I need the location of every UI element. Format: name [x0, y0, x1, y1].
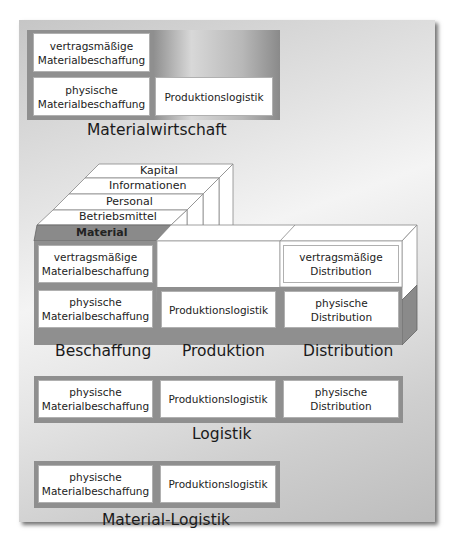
- logistik-title: Logistik: [192, 425, 251, 443]
- layer-personal: Personal: [106, 195, 153, 208]
- material-logistik-title: Material-Logistik: [102, 511, 230, 529]
- column-title-beschaffung: Beschaffung: [55, 342, 151, 360]
- layer-betriebsmittel: Betriebsmittel: [79, 210, 157, 223]
- logistik-cell-physische-distribution: physischeDistribution: [283, 380, 399, 418]
- ml-cell-physische-materialbeschaffung: physischeMaterialbeschaffung: [38, 465, 153, 503]
- logistik-cell-produktionslogistik: Produktionslogistik: [160, 380, 276, 418]
- cube-cell-physische-materialbeschaffung: physischeMaterialbeschaffung: [38, 290, 153, 328]
- logistik-cell-physische-materialbeschaffung: physischeMaterialbeschaffung: [38, 380, 153, 418]
- column-title-produktion: Produktion: [182, 342, 265, 360]
- cube-cell-vertragsmaessige-distribution: vertragsmäßigeDistribution: [283, 245, 399, 283]
- ml-cell-produktionslogistik: Produktionslogistik: [160, 465, 276, 503]
- cube-cell-vertragsmaessige-materialbeschaffung: vertragsmäßigeMaterialbeschaffung: [38, 245, 153, 283]
- cube-cell-produktionslogistik: Produktionslogistik: [161, 291, 276, 328]
- layer-material: Material: [76, 226, 127, 239]
- column-title-distribution: Distribution: [303, 342, 393, 360]
- layer-kapital: Kapital: [140, 164, 178, 177]
- layer-informationen: Informationen: [109, 179, 186, 192]
- cube-cell-physische-distribution: physischeDistribution: [284, 291, 399, 328]
